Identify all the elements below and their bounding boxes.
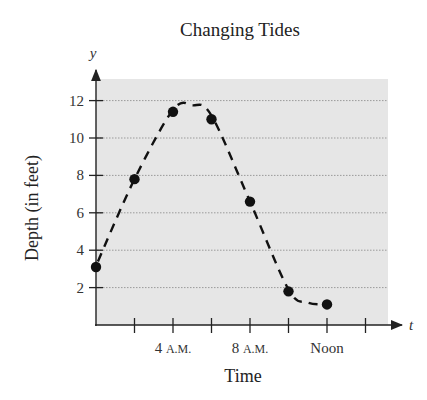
data-point [245,196,255,206]
y-tick-label: 12 [69,93,84,109]
y-axis-title: Depth (in feet) [22,155,43,261]
chart-title: Changing Tides [180,19,300,40]
data-point [129,174,139,184]
data-point [91,262,101,272]
y-tick-label: 6 [77,205,85,221]
y-tick-label: 8 [77,167,85,183]
data-point [168,107,178,117]
y-tick-label: 10 [69,130,84,146]
data-point [322,299,332,309]
y-tick-label: 4 [77,242,85,258]
x-tick-label: 4 A.M. [155,340,192,356]
data-point [206,114,216,124]
tide-chart: Changing Tides 24681012 4 A.M.8 A.M.Noon… [0,0,427,400]
x-tick-label: Noon [310,340,344,356]
y-axis-variable: y [88,45,97,61]
y-tick-label: 2 [77,280,85,296]
data-point [283,286,293,296]
x-axis-title: Time [224,366,261,386]
x-tick-label: 8 A.M. [232,340,269,356]
x-axis-variable: t [409,317,414,333]
